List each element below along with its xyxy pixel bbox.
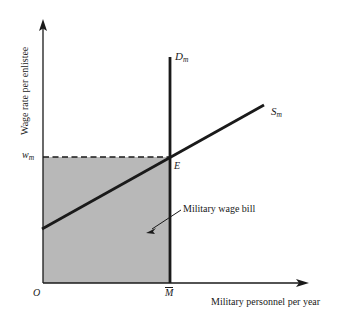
equilibrium-point-label: E [174, 161, 180, 171]
military-wage-bill-region [43, 157, 170, 283]
wage-tick-subscript: m [29, 153, 34, 162]
supply-curve-subscript: m [277, 110, 282, 119]
demand-curve-label: Dm [175, 51, 188, 64]
origin-label: O [33, 288, 40, 298]
y-axis-title: Wage rate per enlistee [20, 47, 30, 135]
quantity-tick-label: M [165, 288, 173, 298]
wage-tick-symbol: w [22, 149, 29, 160]
demand-curve-symbol: D [175, 50, 183, 62]
military-labour-market-diagram: Wage rate per enlistee Military personne… [0, 0, 338, 325]
wage-tick-label: wm [22, 150, 34, 162]
x-axis-title: Military personnel per year [211, 297, 320, 307]
supply-curve-label: Sm [271, 106, 282, 119]
diagram-canvas [0, 0, 338, 325]
quantity-tick-symbol: M [165, 288, 173, 298]
demand-curve-subscript: m [183, 55, 188, 64]
military-wage-bill-label: Military wage bill [183, 204, 255, 214]
